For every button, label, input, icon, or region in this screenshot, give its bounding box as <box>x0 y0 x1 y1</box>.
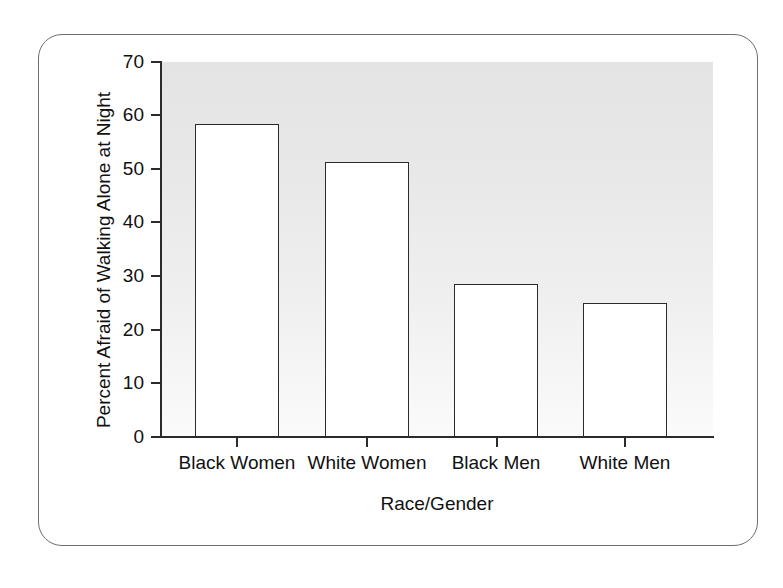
y-tick-mark-60 <box>151 114 161 116</box>
x-tick-mark-3 <box>496 438 498 447</box>
y-tick-label-70: 70 <box>104 52 144 71</box>
bar-black-men[interactable] <box>454 284 538 437</box>
x-tick-mark-1 <box>236 438 238 447</box>
x-label-black-men: Black Men <box>426 452 566 474</box>
y-tick-mark-70 <box>151 61 161 63</box>
y-tick-mark-30 <box>151 275 161 277</box>
x-label-white-men: White Men <box>555 452 695 474</box>
x-tick-mark-4 <box>624 438 626 447</box>
y-tick-mark-40 <box>151 221 161 223</box>
y-axis-title: Percent Afraid of Walking Alone at Night <box>93 70 115 450</box>
y-tick-mark-10 <box>151 382 161 384</box>
y-tick-mark-20 <box>151 329 161 331</box>
bar-white-men[interactable] <box>583 303 667 437</box>
x-label-white-women: White Women <box>297 452 437 474</box>
bar-black-women[interactable] <box>195 124 279 437</box>
x-label-black-women: Black Women <box>167 452 307 474</box>
y-tick-mark-0 <box>151 436 161 438</box>
x-tick-mark-2 <box>366 438 368 447</box>
bar-chart: 70 60 50 40 30 20 10 0 Black Women White… <box>0 0 783 588</box>
x-axis-title: Race/Gender <box>161 493 713 515</box>
y-tick-mark-50 <box>151 168 161 170</box>
bar-white-women[interactable] <box>325 162 409 437</box>
